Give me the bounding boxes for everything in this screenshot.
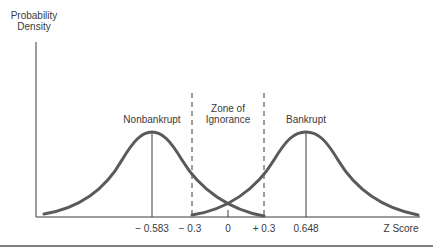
tick-0: 0 <box>225 223 231 234</box>
nonbankrupt-label: Nonbankrupt <box>122 114 182 125</box>
x-axis-label: Z Score <box>383 223 418 234</box>
tick-neg-03: − 0.3 <box>179 223 202 234</box>
zone-of-ignorance-label: Zone of Ignorance <box>195 103 261 125</box>
tick-0648: 0.648 <box>293 223 318 234</box>
bankrupt-label: Bankrupt <box>276 114 336 125</box>
tick-pos-03: + 0.3 <box>253 223 276 234</box>
zone-label-line2: Ignorance <box>195 114 261 125</box>
tick-neg-0583: − 0.583 <box>135 223 169 234</box>
chart-plot <box>0 0 443 250</box>
zone-label-line1: Zone of <box>195 103 261 114</box>
